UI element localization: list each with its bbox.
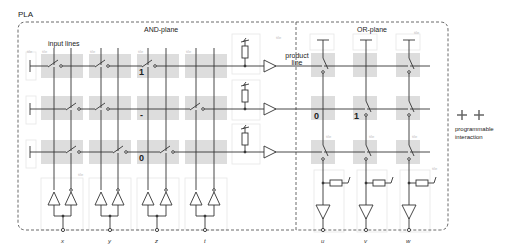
tile-label: tile	[414, 30, 419, 35]
tile-label: tile	[412, 134, 417, 139]
tile-label: tile	[326, 134, 331, 139]
tile-label: tile	[186, 49, 191, 54]
input-label-y: y	[108, 238, 111, 244]
and-plane-label: AND-plane	[144, 26, 178, 33]
legend-label: programmable interaction	[455, 125, 494, 141]
tile-label: tile	[90, 49, 95, 54]
or-value-v: 1	[354, 111, 359, 121]
and-value-row3: 0	[139, 153, 144, 163]
input-label-t: t	[204, 238, 206, 244]
or-plane-label: OR-plane	[357, 26, 387, 33]
output-label-u: u	[321, 238, 324, 244]
or-value-u: 0	[314, 111, 319, 121]
pla-diagram: PLA AND-plane OR-plane input lines produ…	[0, 0, 512, 252]
tile-label: tile	[432, 166, 437, 171]
input-drivers	[48, 189, 220, 232]
input-label-z: z	[155, 238, 158, 244]
product-line-drivers	[241, 38, 276, 158]
product-line-label: product line	[284, 52, 310, 66]
input-label-x: x	[61, 238, 64, 244]
and-plane-border	[18, 22, 296, 230]
tile-label: tile	[276, 35, 281, 40]
pla-schematic	[0, 0, 512, 252]
output-drivers	[316, 177, 436, 232]
tile-label: tile	[78, 172, 83, 177]
tile-label: tile	[27, 49, 32, 54]
and-value-row2: -	[140, 110, 143, 120]
output-label-v: v	[364, 238, 367, 244]
tile-label: tile	[42, 49, 47, 54]
and-value-row1: 1	[139, 67, 144, 77]
input-lines-label: input lines	[48, 40, 80, 47]
tile-label: tile	[369, 134, 374, 139]
pla-title: PLA	[18, 11, 33, 19]
output-label-w: w	[406, 238, 410, 244]
legend-icons	[457, 110, 484, 120]
tile-label: tile	[138, 49, 143, 54]
